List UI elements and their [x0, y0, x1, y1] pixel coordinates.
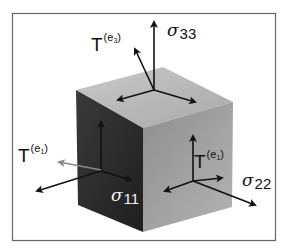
- sup-sub: 3: [113, 37, 117, 44]
- sigma-subscript: 22: [255, 175, 272, 192]
- label-t-e1-left: T(e1): [18, 146, 48, 165]
- label-t-e3: T(e3): [91, 35, 121, 54]
- sigma-symbol: σ: [111, 185, 123, 205]
- sup-close: ): [117, 31, 121, 43]
- stress-cube-diagram: T(e3) σ33 T(e1) σ11 T(e1) σ22: [0, 0, 285, 251]
- label-t-e1-right: T(e1): [194, 152, 224, 171]
- sup-sub: 1: [40, 148, 44, 155]
- label-t-e3-sup: (e3): [104, 31, 121, 43]
- label-t-e1-left-base: T: [18, 145, 30, 166]
- sup-close: ): [44, 142, 48, 154]
- sigma-subscript: 11: [124, 190, 140, 207]
- sigma-symbol: σ: [242, 170, 254, 190]
- sup-open: (e: [207, 148, 217, 160]
- sup-close: ): [220, 148, 224, 160]
- diagram-canvas: [0, 0, 285, 251]
- label-sigma22: σ22: [242, 172, 271, 189]
- label-t-e3-base: T: [91, 34, 103, 55]
- label-sigma11: σ11: [111, 187, 139, 204]
- sigma-symbol: σ: [167, 20, 179, 40]
- sup-open: (e: [31, 142, 41, 154]
- sup-sub: 1: [216, 154, 220, 161]
- label-sigma33: σ33: [167, 22, 196, 39]
- sup-open: (e: [104, 31, 114, 43]
- sigma-subscript: 33: [180, 25, 197, 42]
- label-t-e1-right-base: T: [194, 151, 206, 172]
- label-t-e1-right-sup: (e1): [207, 148, 224, 160]
- label-t-e1-left-sup: (e1): [31, 142, 48, 154]
